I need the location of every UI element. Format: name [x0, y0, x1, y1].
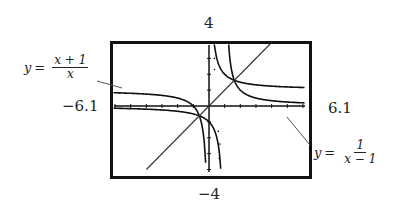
- plot-area: [0, 0, 393, 208]
- curve-f1-right-branch: [214, 45, 305, 88]
- curve-f2-right-branch: [228, 45, 304, 103]
- pointer-line-right: [287, 117, 310, 145]
- curve-f1-left-branch: [114, 93, 206, 163]
- pointer-line-left: [97, 81, 122, 88]
- graph-curves: [114, 43, 306, 173]
